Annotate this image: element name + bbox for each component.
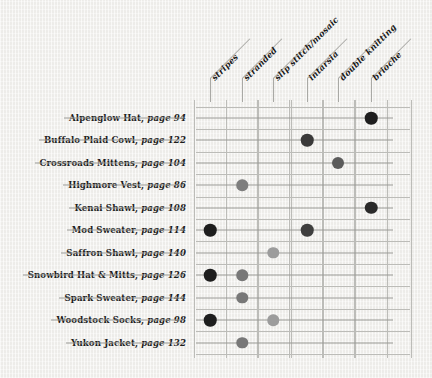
data-dot[interactable] <box>301 224 314 237</box>
grid-hline <box>196 129 410 130</box>
row-leader-line <box>35 162 185 163</box>
grid-hline <box>196 174 410 175</box>
plot-area <box>196 100 410 358</box>
column-header-stem-0 <box>210 78 211 102</box>
data-dot[interactable] <box>365 112 378 125</box>
row-leader-line <box>64 118 184 119</box>
data-dot[interactable] <box>236 180 248 192</box>
column-header-stem-4 <box>338 78 339 102</box>
row-leader-line-plot <box>196 185 393 186</box>
grid-hline <box>196 152 410 153</box>
row-leader-line-plot <box>196 230 393 231</box>
column-header-stem-1 <box>242 78 243 102</box>
data-dot[interactable] <box>365 202 378 215</box>
data-dot[interactable] <box>204 224 217 237</box>
row-leader-line <box>67 230 184 231</box>
row-leader-line <box>39 140 184 141</box>
grid-hline <box>196 197 410 198</box>
row-leader-line-plot <box>196 275 393 276</box>
data-dot[interactable] <box>267 247 279 259</box>
grid-hline <box>196 309 410 310</box>
row-leader-line <box>63 185 184 186</box>
row-leader-line-plot <box>196 297 393 298</box>
grid-hline <box>196 331 410 332</box>
column-header-stem-2 <box>273 78 274 102</box>
data-dot[interactable] <box>236 292 248 304</box>
technique-matrix-chart: stripesstrandedslip stitch/mosaicintarsi… <box>0 0 432 378</box>
data-dot[interactable] <box>301 134 314 147</box>
row-leader-line-plot <box>196 320 393 321</box>
row-leader-line-plot <box>196 140 393 141</box>
row-leader-line-plot <box>196 118 393 119</box>
data-dot[interactable] <box>204 269 217 282</box>
data-dot[interactable] <box>204 314 217 327</box>
data-dot[interactable] <box>332 157 344 169</box>
column-header-double-knitting[interactable]: double knitting <box>337 22 398 83</box>
column-header-stem-5 <box>371 78 372 102</box>
grid-hline <box>196 264 410 265</box>
grid-hline <box>196 241 410 242</box>
row-leader-line <box>69 207 184 208</box>
row-leader-line <box>59 297 184 298</box>
column-header-slip-stitch-mosaic[interactable]: slip stitch/mosaic <box>272 15 340 83</box>
grid-hline <box>196 107 410 108</box>
data-dot[interactable] <box>236 337 248 349</box>
row-leader-line-plot <box>196 252 393 253</box>
row-leader-line-plot <box>196 342 393 343</box>
column-header-brioche[interactable]: brioche <box>370 49 403 82</box>
row-leader-line-plot <box>196 207 393 208</box>
column-header-stripes[interactable]: stripes <box>209 52 240 83</box>
row-labels-column: Alpenglow Hat, page 94Buffalo Plaid Cowl… <box>0 0 186 378</box>
grid-hline <box>196 354 410 355</box>
row-leader-line <box>61 252 184 253</box>
column-header-stem-3 <box>307 78 308 102</box>
grid-hline <box>196 286 410 287</box>
row-leader-line <box>66 342 184 343</box>
data-dot[interactable] <box>236 269 248 281</box>
row-leader-line <box>23 275 184 276</box>
grid-vline <box>194 100 195 358</box>
grid-hline <box>196 219 410 220</box>
grid-vline <box>411 100 412 358</box>
row-leader-line-plot <box>196 162 393 163</box>
column-header-intarsia[interactable]: intarsia <box>306 49 340 83</box>
data-dot[interactable] <box>267 314 279 326</box>
row-leader-line <box>51 320 184 321</box>
